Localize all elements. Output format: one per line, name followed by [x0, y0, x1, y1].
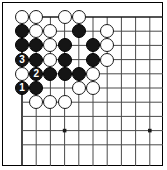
stone-white: [86, 81, 100, 95]
stone-white: [100, 53, 114, 67]
go-board-figure: 321: [0, 0, 167, 170]
stone-white: [15, 10, 29, 24]
stone-black: [58, 67, 72, 81]
stone-black: [72, 67, 86, 81]
stone-white: [58, 10, 72, 24]
stone-white: [86, 67, 100, 81]
move-number-label: 3: [19, 55, 25, 65]
move-number-label: 1: [19, 83, 25, 93]
stone-black-move-1: 1: [15, 81, 29, 95]
stone-white: [58, 95, 72, 109]
stone-white: [72, 10, 86, 24]
stone-black: [58, 53, 72, 67]
star-point: [63, 129, 67, 133]
stone-black: [29, 53, 43, 67]
move-number-label: 2: [33, 69, 39, 79]
stone-black: [72, 24, 86, 38]
star-point: [148, 129, 152, 133]
stone-white: [72, 81, 86, 95]
stone-black-move-3: 3: [15, 53, 29, 67]
stone-black-move-2: 2: [29, 67, 43, 81]
stone-black: [86, 53, 100, 67]
stone-white: [15, 67, 29, 81]
